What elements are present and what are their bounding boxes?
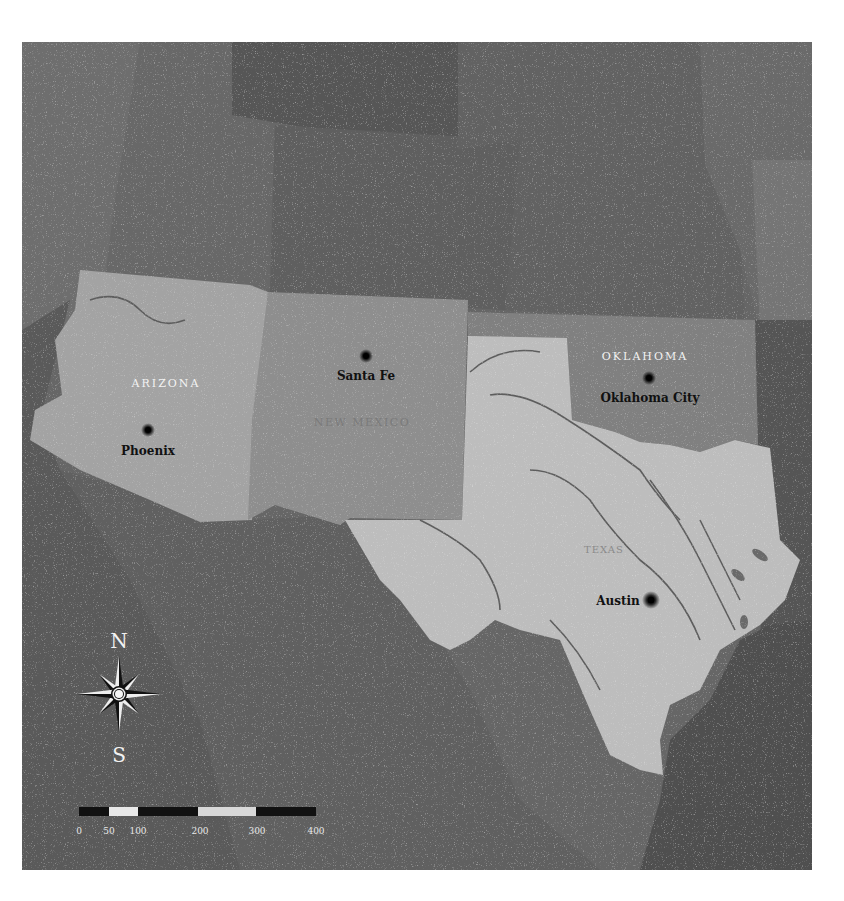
scale-tick-100: 100 [129, 826, 146, 836]
capital-label-santa-fe: Santa Fe [337, 369, 396, 383]
compass-south-label: S [112, 743, 126, 767]
state-label-arizona: ARIZONA [131, 377, 201, 390]
capital-marker-austin[interactable] [642, 591, 660, 609]
compass-north-label: N [110, 629, 128, 653]
capital-marker-oklahoma-city[interactable] [642, 371, 656, 385]
capital-marker-phoenix[interactable] [141, 423, 155, 437]
scale-tick-300: 300 [248, 826, 265, 836]
scale-tick-400: 400 [307, 826, 324, 836]
scale-tick-50: 50 [103, 826, 115, 836]
state-new-mexico[interactable] [248, 292, 468, 525]
capital-label-austin: Austin [595, 594, 640, 608]
region-colorado [270, 125, 520, 310]
capital-marker-santa-fe[interactable] [359, 349, 373, 363]
capital-label-oklahoma-city: Oklahoma City [600, 391, 700, 405]
scale-tick-0: 0 [76, 826, 82, 836]
state-label-texas: TEXAS [584, 544, 624, 555]
scale-tick-200: 200 [191, 826, 208, 836]
map-canvas: ARIZONA NEW MEXICO OKLAHOMA TEXAS Phoeni… [0, 0, 844, 901]
state-label-new-mexico: NEW MEXICO [314, 416, 410, 429]
state-label-oklahoma: OKLAHOMA [602, 350, 688, 363]
capital-label-phoenix: Phoenix [121, 444, 176, 458]
